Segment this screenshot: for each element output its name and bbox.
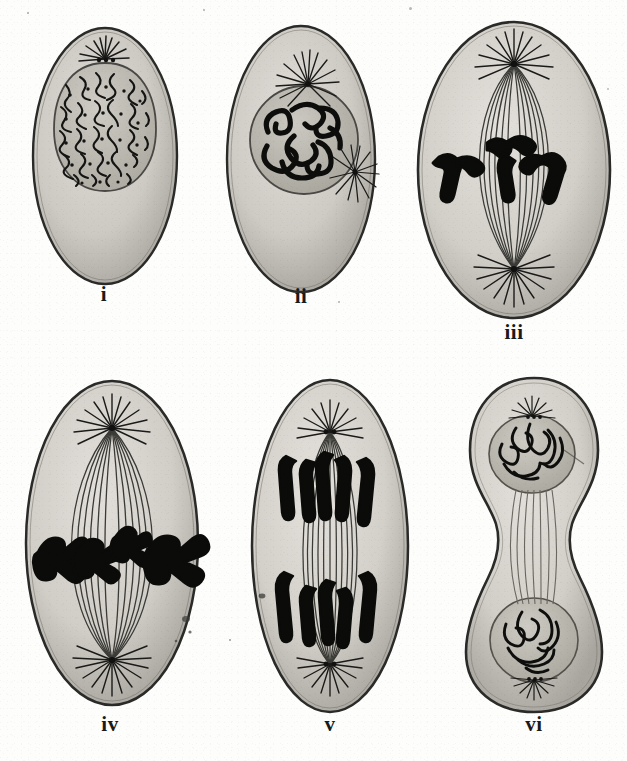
caption-iii: iii xyxy=(464,320,564,345)
centrosome-iii-bottom xyxy=(511,266,517,272)
figure-iii xyxy=(411,17,617,327)
centrosome-vi-bottom xyxy=(527,677,543,681)
nucleus-i xyxy=(54,63,156,191)
page-speckle xyxy=(338,301,340,303)
figure-iv xyxy=(20,376,206,714)
caption-iv: iv xyxy=(60,712,160,737)
page-speckle xyxy=(409,7,412,10)
centrosome-iv-top xyxy=(109,425,115,431)
daughter-nucleus-bottom-vi xyxy=(490,598,578,682)
centrosome-vi-top xyxy=(526,415,542,419)
centrosome-ii-right xyxy=(352,169,357,174)
figure-vi xyxy=(452,372,618,718)
mitosis-plate: i xyxy=(0,0,627,761)
page-speckle xyxy=(229,639,231,641)
caption-vi: vi xyxy=(484,712,584,737)
centrosome-iii-top xyxy=(511,61,517,67)
daughter-chromosomes-top-v xyxy=(279,452,374,526)
caption-ii: ii xyxy=(251,284,351,309)
figure-ii xyxy=(222,22,380,294)
caption-v: v xyxy=(280,712,380,737)
figure-i xyxy=(30,25,180,287)
centrosome-iv-bottom xyxy=(109,657,115,663)
centrosome-ii-top xyxy=(305,81,311,87)
page-speckle xyxy=(607,88,609,90)
plate-blemishes-v xyxy=(259,594,266,599)
caption-i: i xyxy=(54,282,154,307)
page-speckle xyxy=(27,12,29,14)
centrosome-i xyxy=(97,58,115,62)
page-speckle xyxy=(203,9,205,11)
figure-v xyxy=(248,374,414,716)
